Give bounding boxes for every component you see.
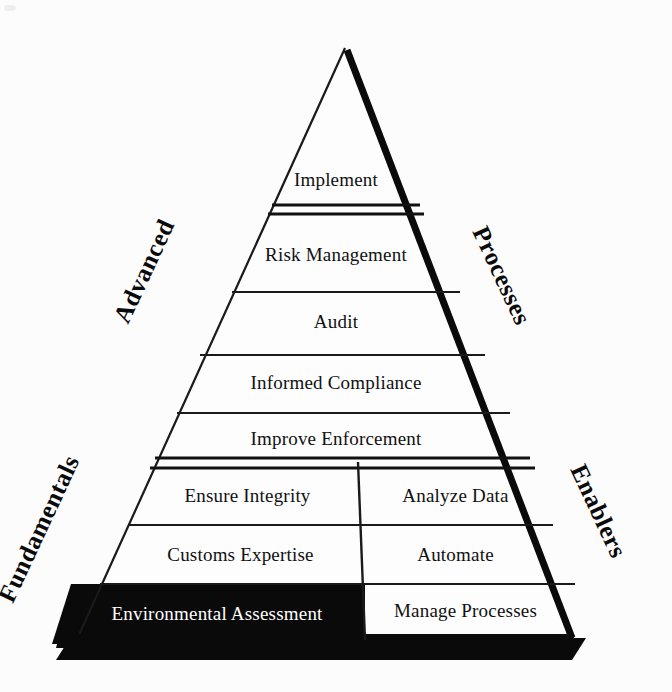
row-label-customs-expertise: Customs Expertise <box>128 545 353 564</box>
row-label-ensure-integrity: Ensure Integrity <box>140 486 355 505</box>
pyramid-graphic <box>0 0 672 692</box>
row-label-informed-compliance: Informed Compliance <box>0 373 672 392</box>
pyramid-diagram-page: Implement Risk Management Audit Informed… <box>0 0 672 692</box>
row-label-audit: Audit <box>0 312 672 331</box>
row-label-environmental-assessment: Environmental Assessment <box>72 604 362 623</box>
row-label-manage-processes: Manage Processes <box>368 601 563 620</box>
row-label-implement: Implement <box>0 170 672 189</box>
row-label-risk-management: Risk Management <box>0 245 672 264</box>
row-label-improve-enforcement: Improve Enforcement <box>0 429 672 448</box>
row-label-analyze-data: Analyze Data <box>368 486 543 505</box>
row-label-automate: Automate <box>368 545 543 564</box>
